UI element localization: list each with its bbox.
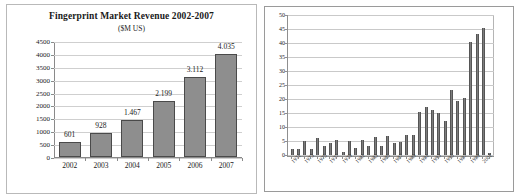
y-axis-tick-label: 1500 xyxy=(36,115,50,123)
x-axis-tick-mark xyxy=(323,157,324,159)
bar xyxy=(476,34,479,155)
y-axis-tick-label: 2500 xyxy=(36,90,50,98)
x-axis-tick-label: 2003 xyxy=(85,161,116,170)
x-axis-tick-mark xyxy=(336,157,337,159)
bar-series xyxy=(289,15,493,155)
charts-page: Fingerprint Market Revenue 2002-2007 ($M… xyxy=(0,0,517,196)
bar-value-label: 928 xyxy=(95,121,106,130)
y-axis-tick-label: 0 xyxy=(47,154,51,162)
chart-title: Fingerprint Market Revenue 2002-2007 xyxy=(7,11,256,21)
bar-value-label: 3.112 xyxy=(187,65,204,74)
y-axis-tick-label: 4500 xyxy=(36,38,50,46)
bar xyxy=(437,113,440,155)
bar xyxy=(121,120,143,157)
x-axis-tick-mark xyxy=(298,157,299,159)
fingerprint-revenue-chart-panel: Fingerprint Market Revenue 2002-2007 ($M… xyxy=(6,4,257,194)
x-axis-tick-label: 2004 xyxy=(117,161,148,170)
y-axis-tick-mark xyxy=(285,85,288,86)
y-axis-tick-mark xyxy=(285,15,288,16)
bar-group: 601 xyxy=(54,42,85,157)
x-axis-tick-label: 2005 xyxy=(148,161,179,170)
y-axis-tick-mark xyxy=(285,113,288,114)
x-axis-tick-mark xyxy=(179,158,180,161)
bar xyxy=(393,143,396,155)
bar xyxy=(425,107,428,155)
bar xyxy=(303,141,306,155)
y-axis-tick-label: 1000 xyxy=(36,128,50,136)
bar xyxy=(469,42,472,155)
bar-value-label: 4.035 xyxy=(218,42,235,51)
y-axis-tick-mark xyxy=(285,127,288,128)
y-axis-tick-label: 500 xyxy=(40,141,51,149)
x-axis-tick-mark xyxy=(85,158,86,161)
x-axis-tick-mark xyxy=(476,157,477,159)
y-axis-tick-mark xyxy=(285,155,288,156)
bar xyxy=(316,138,319,155)
plot-area: 05101520253035404550 xyxy=(287,15,494,157)
bar xyxy=(367,146,370,155)
bar xyxy=(354,148,357,155)
x-axis-tick-mark xyxy=(400,157,401,159)
y-axis-tick-label: 3500 xyxy=(36,64,50,72)
bar-group: 2.199 xyxy=(148,42,179,157)
bar-value-label: 2.199 xyxy=(155,89,172,98)
bar xyxy=(431,110,434,155)
bar xyxy=(90,133,112,157)
y-axis-tick-label: 4000 xyxy=(36,51,50,59)
bar xyxy=(291,149,294,155)
x-axis-tick-mark xyxy=(374,157,375,159)
bar xyxy=(418,112,421,155)
bar xyxy=(342,152,345,155)
bar xyxy=(215,54,237,157)
x-axis-tick-mark xyxy=(412,157,413,159)
x-axis-tick-label: 2006 xyxy=(179,161,210,170)
y-axis-tick-mark xyxy=(285,99,288,100)
y-axis-tick-label: 3000 xyxy=(36,77,50,85)
x-axis-tick-mark xyxy=(242,158,243,161)
bar-value-label: 601 xyxy=(64,130,75,139)
y-axis-tick-mark xyxy=(285,141,288,142)
x-axis-tick-labels: 200220032004200520062007 xyxy=(54,161,242,170)
bar xyxy=(463,98,466,155)
bar xyxy=(59,142,81,157)
bar-group: 1.467 xyxy=(117,42,148,157)
bar-value-label: 1.467 xyxy=(124,108,141,117)
y-axis-tick-mark xyxy=(285,29,288,30)
bar-group: 3.112 xyxy=(179,42,210,157)
bar xyxy=(444,121,447,155)
x-axis-tick-mark xyxy=(489,157,490,159)
yearly-counts-chart-panel: 05101520253035404550 1971197319751977197… xyxy=(264,6,514,192)
x-axis-tick-mark xyxy=(463,157,464,159)
y-axis-tick-mark xyxy=(51,158,54,159)
bar xyxy=(153,101,175,157)
bar xyxy=(329,143,332,155)
x-axis-tick-mark xyxy=(117,158,118,161)
plot-area: 050010001500200025003000350040004500 601… xyxy=(54,42,242,158)
y-axis-tick-mark xyxy=(285,71,288,72)
chart-subtitle: ($M US) xyxy=(7,24,256,33)
x-axis-tick-mark xyxy=(349,157,350,159)
x-axis-tick-mark xyxy=(211,158,212,161)
bar xyxy=(184,77,206,157)
y-axis-tick-label: 2000 xyxy=(36,102,50,110)
x-axis-tick-mark xyxy=(438,157,439,159)
x-axis-tick-mark xyxy=(361,157,362,159)
x-axis-tick-label: 2002 xyxy=(54,161,85,170)
bar xyxy=(450,90,453,155)
bar-group xyxy=(487,15,493,155)
bar-group: 928 xyxy=(85,42,116,157)
x-axis-tick-label: 2007 xyxy=(211,161,242,170)
x-axis-tick-labels: 1971197319751977197919811983198519871989… xyxy=(288,157,492,196)
bar xyxy=(405,135,408,155)
x-axis-tick-mark xyxy=(425,157,426,159)
bar xyxy=(456,101,459,155)
y-axis-tick-mark xyxy=(285,43,288,44)
bar xyxy=(380,146,383,155)
bar-group: 4.035 xyxy=(211,42,242,157)
x-axis-tick-mark xyxy=(310,157,311,159)
x-axis-tick-mark xyxy=(387,157,388,159)
bar-series: 6019281.4672.1993.1124.035 xyxy=(54,42,242,157)
x-axis-tick-mark xyxy=(451,157,452,159)
bar xyxy=(482,28,485,155)
x-axis-tick-mark xyxy=(148,158,149,161)
